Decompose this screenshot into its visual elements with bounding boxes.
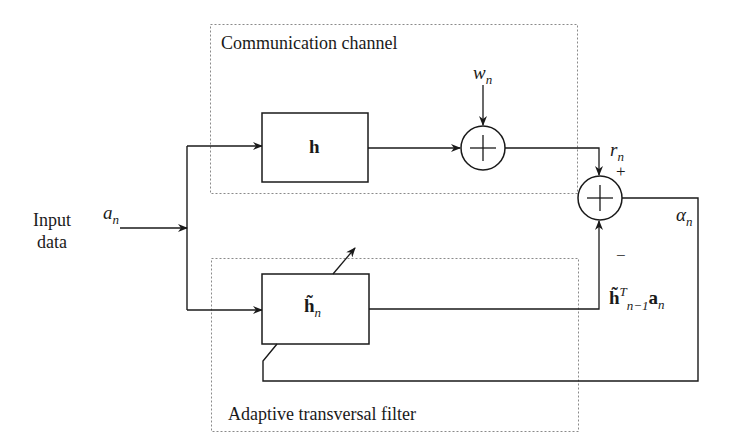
- input-label-line1: Input: [33, 211, 71, 229]
- noise-symbol-base: w: [473, 62, 486, 83]
- received-signal-line: [505, 148, 599, 175]
- input-symbol: an: [103, 203, 119, 226]
- noise-summer-icon: [461, 126, 505, 170]
- estimate-vec-sub: n: [658, 297, 665, 312]
- noise-symbol: wn: [473, 63, 492, 86]
- estimate-line: [369, 221, 599, 309]
- error-symbol: αn: [676, 205, 692, 228]
- estimate-label: h̃Tn−1an: [609, 285, 665, 312]
- channel-group-title: Communication channel: [221, 34, 397, 52]
- adaptive-equalizer-diagram: Communication channel Adaptive transvers…: [0, 0, 732, 448]
- adaptive-arrow: [333, 248, 355, 274]
- minus-sign: −: [616, 247, 626, 264]
- error-summer-icon: [578, 176, 622, 220]
- estimate-sup: T: [620, 284, 627, 299]
- filter-block-label: h̃n: [304, 296, 321, 319]
- filter-label-sub: n: [315, 305, 322, 320]
- filter-group-title: Adaptive transversal filter: [228, 405, 416, 423]
- input-data-label: Input data: [33, 211, 71, 251]
- channel-block-label: h: [309, 137, 320, 156]
- noise-symbol-sub: n: [486, 72, 493, 87]
- error-symbol-sub: n: [686, 214, 693, 229]
- estimate-vec: a: [649, 287, 659, 308]
- input-label-line2: data: [33, 233, 71, 251]
- error-symbol-base: α: [676, 204, 686, 225]
- estimate-sub: n−1: [627, 298, 649, 313]
- estimate-base: h̃: [609, 287, 620, 308]
- input-symbol-base: a: [103, 202, 113, 223]
- filter-label-base: h̃: [304, 295, 315, 316]
- received-symbol: rn: [610, 140, 624, 163]
- input-symbol-sub: n: [113, 212, 120, 227]
- plus-sign: +: [616, 163, 626, 180]
